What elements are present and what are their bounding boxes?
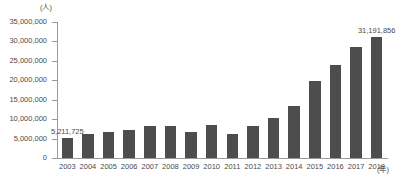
- bar-slot: [284, 22, 305, 158]
- x-axis-tick-label: 2015: [306, 163, 323, 171]
- bar-slot: [263, 22, 284, 158]
- bar[interactable]: [247, 126, 258, 158]
- y-axis-tick-label: 0: [43, 154, 47, 162]
- x-axis-tick-label: 2013: [265, 163, 282, 171]
- x-axis-tick-label: 2004: [80, 163, 97, 171]
- bar-slot: [98, 22, 119, 158]
- bar[interactable]: [62, 138, 73, 158]
- x-axis-tick-label: 2012: [245, 163, 262, 171]
- x-axis-tick-label: 2003: [59, 163, 76, 171]
- bar-slot: [201, 22, 222, 158]
- y-axis-tick-label: 10,000,000: [9, 115, 47, 123]
- y-axis-label-slot: 5,000,000: [0, 139, 50, 140]
- bar[interactable]: [165, 126, 176, 158]
- x-axis-tick-label: 2009: [183, 163, 200, 171]
- bar-slot: [181, 22, 202, 158]
- bar[interactable]: [268, 118, 279, 158]
- y-axis-label-slot: 15,000,000: [0, 100, 50, 101]
- x-axis-tick-label: 2010: [203, 163, 220, 171]
- x-axis-tick-label: 2005: [100, 163, 117, 171]
- bar-slot: [222, 22, 243, 158]
- y-axis-tick-label: 35,000,000: [9, 18, 47, 26]
- bar[interactable]: [123, 130, 134, 158]
- bar-slot: [140, 22, 161, 158]
- y-axis-label-slot: 35,000,000: [0, 22, 50, 23]
- y-axis-tick-label: 20,000,000: [9, 76, 47, 84]
- bar-slot: [346, 22, 367, 158]
- bar[interactable]: [227, 134, 238, 158]
- bar-chart: (人) (年) 35,000,00030,000,00025,000,00020…: [0, 0, 403, 185]
- bar-slot: 31,191,856: [366, 22, 387, 158]
- x-axis-tick-label: 2011: [224, 163, 240, 171]
- y-axis-label-slot: 0: [0, 158, 50, 159]
- y-axis-tick-label: 15,000,000: [9, 96, 47, 104]
- bar[interactable]: [371, 37, 382, 158]
- y-axis-label-slot: 30,000,000: [0, 41, 50, 42]
- bar[interactable]: [309, 81, 320, 158]
- bar[interactable]: [350, 47, 361, 158]
- y-axis-label-slot: 20,000,000: [0, 80, 50, 81]
- y-axis-unit-label: (人): [40, 1, 52, 12]
- bar[interactable]: [82, 134, 93, 158]
- bar-slot: [119, 22, 140, 158]
- bar-series-group: 5,211,72531,191,856: [57, 22, 387, 158]
- x-axis-tick-label: 2014: [286, 163, 303, 171]
- x-axis-line: [57, 158, 388, 159]
- bar-slot: [160, 22, 181, 158]
- y-axis-label-slot: 25,000,000: [0, 61, 50, 62]
- y-axis-tick: [52, 158, 57, 159]
- bar[interactable]: [206, 125, 217, 158]
- bar[interactable]: [330, 65, 341, 158]
- y-axis-label-slot: 10,000,000: [0, 119, 50, 120]
- bar-slot: [325, 22, 346, 158]
- bar[interactable]: [144, 126, 155, 158]
- x-axis-tick-label: 2018: [368, 163, 385, 171]
- y-axis-tick-label: 30,000,000: [9, 37, 47, 45]
- y-axis-tick-label: 25,000,000: [9, 57, 47, 65]
- bar-slot: 5,211,725: [57, 22, 78, 158]
- x-axis-tick-label: 2017: [348, 163, 365, 171]
- y-axis-tick-label: 5,000,000: [14, 135, 47, 143]
- bar[interactable]: [288, 106, 299, 158]
- bar-slot: [305, 22, 326, 158]
- x-axis-tick-label: 2006: [121, 163, 138, 171]
- x-axis-tick-label: 2008: [162, 163, 179, 171]
- bar-value-label: 31,191,856: [358, 27, 396, 35]
- bar[interactable]: [103, 132, 114, 158]
- bar-slot: [78, 22, 99, 158]
- bar-slot: [243, 22, 264, 158]
- x-axis-tick-label: 2016: [327, 163, 344, 171]
- x-axis-tick-label: 2007: [141, 163, 158, 171]
- bar[interactable]: [185, 132, 196, 158]
